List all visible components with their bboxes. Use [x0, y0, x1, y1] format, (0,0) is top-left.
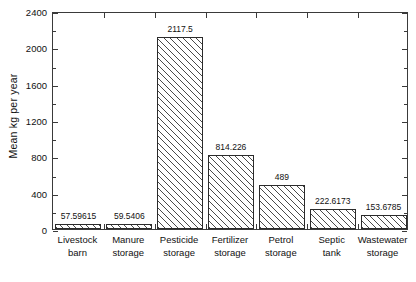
y-axis-title-text: Mean kg per year — [7, 74, 19, 159]
bar-group: 57.59615 — [53, 13, 104, 229]
bar — [361, 215, 407, 229]
bar-group: 222.6173 — [307, 13, 358, 229]
bar-value-label: 814.226 — [216, 142, 247, 152]
bar — [208, 155, 254, 229]
x-tick-label-line: storage — [154, 247, 205, 260]
bar-value-label: 59.5406 — [114, 211, 145, 221]
x-axis-category-labels: LivestockbarnManurestoragePesticidestora… — [52, 232, 408, 278]
x-tick-label-line: tank — [306, 247, 357, 260]
x-tick-label: Septictank — [306, 234, 357, 259]
bar-group: 489 — [256, 13, 307, 229]
y-tick-label: 1600 — [26, 79, 47, 90]
bar-group: 2117.5 — [155, 13, 206, 229]
bar-value-label: 57.59615 — [61, 211, 96, 221]
bars-layer: 57.5961559.54062117.5814.226489222.61731… — [53, 13, 407, 229]
y-tick-label: 400 — [31, 188, 47, 199]
y-tick-label: 1200 — [26, 116, 47, 127]
y-tick-label: 0 — [42, 225, 47, 236]
x-tick-label-line: storage — [255, 247, 306, 260]
bar — [106, 224, 152, 229]
bar-group: 814.226 — [206, 13, 257, 229]
bar — [157, 37, 203, 229]
bar-value-label: 489 — [275, 172, 289, 182]
y-tick-label: 2000 — [26, 43, 47, 54]
x-tick-label-line: Petrol — [255, 234, 306, 247]
bar-group: 153.6785 — [358, 13, 409, 229]
y-axis-title: Mean kg per year — [2, 0, 24, 232]
x-tick-label-line: Pesticide — [154, 234, 205, 247]
x-tick-label: Livestockbarn — [52, 234, 103, 259]
x-tick-label: Fertilizerstorage — [205, 234, 256, 259]
bar-value-label: 153.6785 — [366, 202, 401, 212]
y-tick-label: 2400 — [26, 7, 47, 18]
x-tick-label-line: Septic — [306, 234, 357, 247]
bar — [55, 224, 101, 229]
x-tick-label: Manurestorage — [103, 234, 154, 259]
bar-chart: Mean kg per year 04008001200160020002400… — [0, 0, 416, 282]
bar-group: 59.5406 — [104, 13, 155, 229]
x-tick-label-line: Livestock — [52, 234, 103, 247]
bar-value-label: 2117.5 — [167, 24, 192, 34]
x-tick-label-line: Fertilizer — [205, 234, 256, 247]
x-tick-label: Pesticidestorage — [154, 234, 205, 259]
x-tick-label-line: Manure — [103, 234, 154, 247]
x-tick-label: Wastewaterstorage — [357, 234, 408, 259]
x-tick-label-line: storage — [205, 247, 256, 260]
bar — [310, 209, 356, 229]
x-tick-label-line: storage — [357, 247, 408, 260]
plot-frame: 57.5961559.54062117.5814.226489222.61731… — [52, 12, 408, 230]
bar — [259, 185, 305, 229]
x-tick-label-line: barn — [52, 247, 103, 260]
bar-value-label: 222.6173 — [315, 196, 350, 206]
y-tick-label: 800 — [31, 152, 47, 163]
x-tick-label: Petrolstorage — [255, 234, 306, 259]
y-axis-tick-labels: 04008001200160020002400 — [22, 12, 50, 230]
x-tick-label-line: Wastewater — [357, 234, 408, 247]
x-tick-label-line: storage — [103, 247, 154, 260]
